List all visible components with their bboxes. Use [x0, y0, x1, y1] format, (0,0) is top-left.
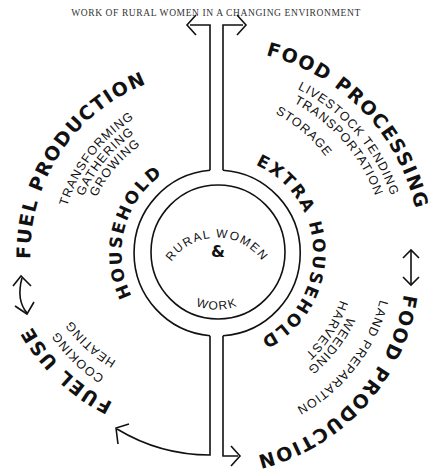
bottom-right-connector	[223, 336, 238, 456]
center-bottom-label: WORK	[195, 295, 239, 313]
work-diagram: RURAL WOMEN & WORK HOUSEHOLD EXTRA HOUSE…	[0, 0, 432, 475]
top-left-connector	[190, 25, 210, 170]
sector-fuel-use: FUEL USE COOKING HEATING	[16, 318, 118, 419]
top-right-connector	[223, 25, 243, 170]
fuel-arrow-head-bottom	[15, 302, 34, 314]
bottom-left-connector	[117, 336, 210, 455]
fuel-double-arrow-icon	[20, 278, 27, 313]
center-ampersand: &	[211, 242, 225, 261]
